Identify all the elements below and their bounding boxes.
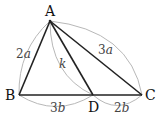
measure-arcs — [19, 21, 142, 107]
point-b-label: B — [5, 87, 15, 103]
point-d-label: D — [88, 99, 99, 114]
point-a-dot — [49, 20, 52, 23]
segments — [19, 21, 142, 95]
length-ac-label: 3a — [98, 43, 113, 57]
point-a-label: A — [44, 3, 56, 19]
point-c-label: C — [145, 87, 156, 103]
length-bd-label: 3b — [50, 101, 65, 114]
length-ad-label: k — [59, 57, 66, 71]
length-ab-label: 2a — [16, 47, 31, 61]
length-dc-label: 2b — [114, 101, 129, 114]
triangle-diagram: A B D C 2a 3a k 3b 2b — [0, 0, 161, 114]
